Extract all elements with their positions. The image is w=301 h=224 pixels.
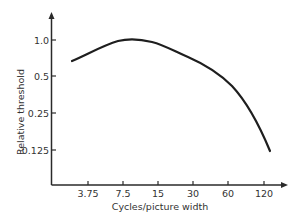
x-ticks: 3.757.5153060120 [77,181,273,199]
x-tick-label: 15 [152,188,164,199]
y-axis-title: Relative threshold [15,69,26,155]
threshold-curve [72,39,270,151]
x-tick-label: 30 [187,188,199,199]
x-axis-title: Cycles/picture width [112,201,209,212]
x-tick-label: 60 [222,188,234,199]
x-tick-label: 3.75 [77,188,98,199]
x-tick-label: 120 [255,188,273,199]
y-tick-label: 0.25 [28,108,49,119]
y-tick-label: 1.0 [34,35,49,46]
y-tick-label: 0.5 [34,71,49,82]
y-axis-arrow-icon [49,12,55,19]
chart: 1.00.50.250.125 3.757.5153060120 Cycles/… [0,0,301,224]
x-axis-arrow-icon [281,182,288,188]
x-tick-label: 7.5 [115,188,130,199]
